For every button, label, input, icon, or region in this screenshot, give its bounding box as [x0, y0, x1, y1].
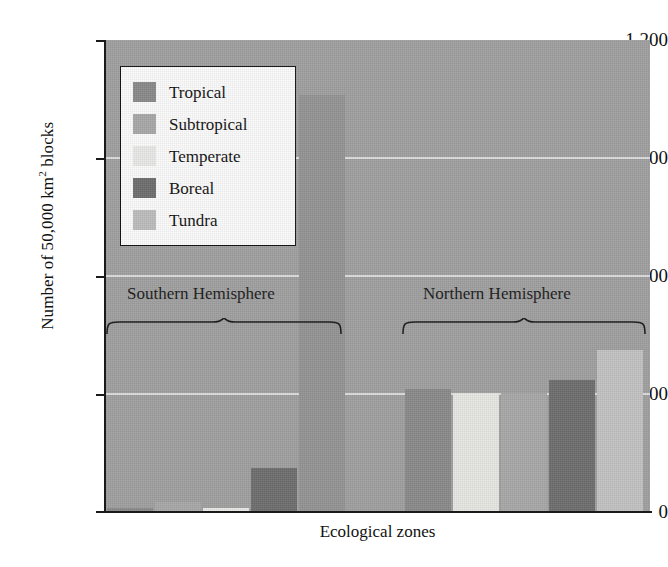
y-axis-title-pre: Number of 50,000 km [38, 177, 57, 330]
bar-southern-subtropical [155, 502, 201, 511]
y-axis-title: Number of 50,000 km2 blocks [36, 61, 58, 391]
legend-label-boreal: Boreal [169, 180, 214, 197]
bar-northern-boreal [549, 380, 595, 511]
group-label-southern: Southern Hemisphere [127, 284, 275, 304]
bar-northern-tundra [597, 350, 643, 511]
gridline-600 [105, 275, 650, 277]
legend-label-subtropical: Subtropical [169, 116, 247, 133]
bar-chart-figure: Number of 50,000 km2 blocks 1,200 900 60… [0, 0, 668, 567]
legend-item-subtropical: Subtropical [133, 108, 285, 140]
y-axis-title-exponent: 2 [36, 171, 48, 177]
legend-swatch-tropical [133, 82, 156, 102]
plot-area: Southern Hemisphere Northern Hemisphere … [105, 40, 650, 511]
legend-swatch-tundra [133, 210, 156, 230]
brace-southern [105, 318, 343, 334]
legend: Tropical Subtropical Temperate Boreal Tu… [120, 66, 296, 246]
legend-label-tundra: Tundra [169, 212, 218, 229]
legend-item-tundra: Tundra [133, 204, 285, 236]
bar-southern-tundra [299, 95, 345, 511]
legend-item-boreal: Boreal [133, 172, 285, 204]
bar-southern-boreal [251, 468, 297, 511]
bar-northern-subtropical [453, 393, 499, 511]
legend-swatch-boreal [133, 178, 156, 198]
bar-northern-tropical [405, 389, 451, 511]
scan-caption-remnant [8, 551, 438, 560]
x-axis-line [104, 511, 652, 513]
y-axis-title-post: blocks [38, 122, 57, 171]
legend-label-tropical: Tropical [169, 84, 226, 101]
legend-item-tropical: Tropical [133, 76, 285, 108]
legend-label-temperate: Temperate [169, 148, 241, 165]
x-axis-title: Ecological zones [105, 522, 650, 542]
bar-northern-temperate [501, 393, 547, 511]
legend-item-temperate: Temperate [133, 140, 285, 172]
brace-northern [401, 318, 647, 334]
legend-swatch-temperate [133, 146, 156, 166]
legend-swatch-subtropical [133, 114, 156, 134]
y-axis-line [104, 40, 106, 513]
group-label-northern: Northern Hemisphere [423, 284, 571, 304]
